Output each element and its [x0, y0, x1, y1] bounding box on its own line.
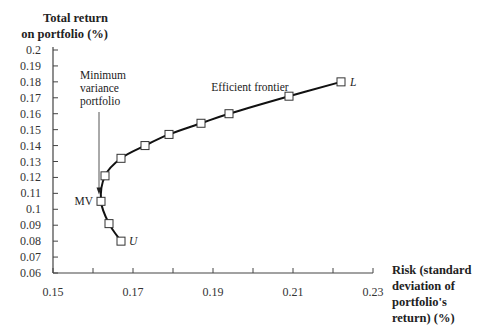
minimum-variance-label: portfolio: [80, 95, 120, 108]
l-label: L: [349, 76, 356, 88]
y-tick-label: 0.18: [20, 75, 41, 89]
frontier-curve: [101, 82, 341, 241]
data-point-square-icon: [197, 119, 205, 127]
y-tick-label: 0.09: [20, 218, 41, 232]
x-tick-label: 0.17: [123, 285, 144, 299]
x-tick-label: 0.19: [203, 285, 224, 299]
y-tick-label: 0.2: [26, 43, 41, 57]
y-tick-label: 0.06: [20, 266, 41, 280]
efficient-frontier-chart: 0.20.190.180.170.160.150.140.130.120.110…: [0, 0, 480, 328]
y-tick-label: 0.08: [20, 234, 41, 248]
data-point-square-icon: [165, 130, 173, 138]
data-point-square-icon: [117, 237, 125, 245]
data-point-square-icon: [97, 197, 105, 205]
minimum-variance-arrow: [97, 112, 102, 195]
x-tick-label: 0.23: [363, 285, 384, 299]
y-tick-label: 0.12: [20, 170, 41, 184]
data-point-square-icon: [337, 78, 345, 86]
y-tick-label: 0.07: [20, 250, 41, 264]
data-point-square-icon: [225, 110, 233, 118]
u-label: U: [129, 235, 138, 247]
y-tick-label: 0.11: [20, 186, 41, 200]
y-tick-label: 0.15: [20, 123, 41, 137]
data-point-square-icon: [101, 172, 109, 180]
x-tick-label: 0.21: [283, 285, 304, 299]
y-tick-label: 0.13: [20, 155, 41, 169]
y-tick-label: 0.1: [26, 202, 41, 216]
y-axis-ticks: 0.20.190.180.170.160.150.140.130.120.110…: [20, 43, 58, 280]
data-point-square-icon: [141, 142, 149, 150]
frontier-series: [97, 78, 345, 245]
efficient-frontier-label: Efficient frontier: [211, 81, 289, 93]
data-point-square-icon: [117, 154, 125, 162]
minimum-variance-label: Minimum: [80, 69, 126, 81]
y-tick-label: 0.19: [20, 59, 41, 73]
x-tick-label: 0.15: [43, 285, 64, 299]
data-point-square-icon: [285, 92, 293, 100]
mv-label: MV: [74, 195, 93, 207]
y-tick-label: 0.14: [20, 139, 41, 153]
y-tick-label: 0.17: [20, 91, 41, 105]
minimum-variance-label: variance: [80, 82, 119, 94]
data-point-square-icon: [105, 220, 113, 228]
y-tick-label: 0.16: [20, 107, 41, 121]
